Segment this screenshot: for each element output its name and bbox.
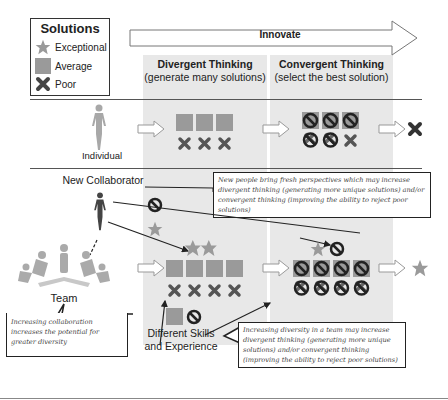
- rejected-solution: [295, 282, 308, 295]
- average-solution: [226, 260, 243, 277]
- skills-label: Different Skills and Experience: [140, 327, 222, 353]
- average-solution: [186, 260, 203, 277]
- skills-label-line1: Different Skills: [148, 327, 215, 339]
- x-icon: [230, 286, 239, 295]
- rejected-solution: [293, 260, 310, 277]
- team-icon: [18, 243, 110, 293]
- average-solution: [166, 260, 183, 277]
- arrow-right-icon: [378, 259, 408, 277]
- poor-solutions: [168, 284, 248, 298]
- rejected-solution: [355, 282, 368, 295]
- star-icon: [201, 240, 217, 256]
- convergent-team-results: [293, 260, 375, 300]
- star-icon: [185, 240, 201, 256]
- note-diversity: Increasing diversity in a team may incre…: [238, 322, 406, 368]
- note-collaboration: Increasing collaboration increases the p…: [6, 313, 128, 357]
- reject-icon: [329, 241, 345, 257]
- x-icon: [190, 286, 199, 295]
- rejected-solution: [335, 282, 348, 295]
- arrow-right-icon: [262, 259, 292, 277]
- outcome-star-icon: [411, 259, 429, 277]
- rejected-solution: [315, 282, 328, 295]
- x-icon: [210, 286, 219, 295]
- reject-icon: [186, 309, 202, 325]
- average-solution: [166, 308, 183, 325]
- x-icon: [170, 286, 179, 295]
- arrow-right-icon: [137, 259, 167, 277]
- star-icon: [147, 221, 163, 237]
- exceptional-solutions: [184, 240, 224, 256]
- rejected-solution: [353, 260, 370, 277]
- reject-icon: [147, 197, 163, 213]
- star-icon: [310, 241, 326, 257]
- rejected-solution: [333, 260, 350, 277]
- rejected-solution: [313, 260, 330, 277]
- skills-label-line2: and Experience: [145, 340, 218, 352]
- average-solution: [206, 260, 223, 277]
